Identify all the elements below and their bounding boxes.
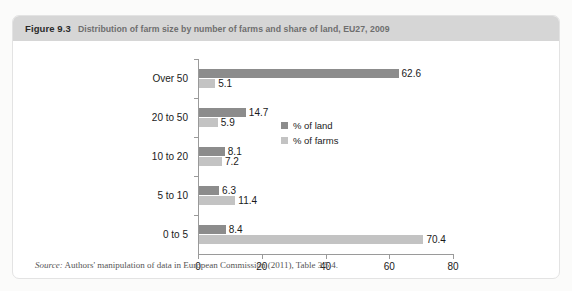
category-label: Over 50: [78, 74, 188, 84]
category-label: 0 to 5: [78, 230, 188, 240]
bar-value-label: 11.4: [238, 196, 257, 206]
bar-value-label: 70.4: [426, 235, 445, 245]
bar-farms: [199, 79, 215, 88]
category-label: 20 to 50: [78, 113, 188, 123]
x-axis-tick-label: 80: [433, 262, 473, 272]
x-axis-tick: [389, 255, 390, 259]
source-note: Source: Authors' manipulation of data in…: [35, 260, 338, 270]
legend-label: % of land: [293, 121, 333, 131]
y-axis-tick: [194, 215, 198, 216]
x-axis-tick: [326, 255, 327, 259]
legend-label: % of farms: [293, 136, 338, 146]
y-axis-tick: [194, 137, 198, 138]
bar-value-label: 7.2: [225, 157, 239, 167]
bar-land: [199, 108, 246, 117]
bar-value-label: 5.1: [218, 79, 232, 89]
bar-land: [199, 69, 399, 78]
y-axis-tick: [194, 98, 198, 99]
chart-legend: % of land% of farms: [281, 119, 338, 149]
x-axis-tick: [198, 255, 199, 259]
bar-land: [199, 147, 225, 156]
figure-title: Distribution of farm size by number of f…: [78, 24, 390, 34]
source-text: Authors' manipulation of data in Europea…: [63, 260, 338, 270]
bar-land: [199, 186, 219, 195]
figure-number: Figure 9.3: [25, 23, 71, 34]
category-label: 5 to 10: [78, 191, 188, 201]
x-axis-tick: [262, 255, 263, 259]
legend-item[interactable]: % of farms: [281, 134, 338, 147]
figure-container: Figure 9.3 Distribution of farm size by …: [12, 15, 560, 279]
bar-land: [199, 225, 226, 234]
bar-value-label: 14.7: [249, 108, 268, 118]
figure-header-band: Figure 9.3 Distribution of farm size by …: [13, 16, 559, 41]
bar-farms: [199, 118, 218, 127]
bar-farms: [199, 157, 222, 166]
legend-item[interactable]: % of land: [281, 119, 338, 132]
source-label: Source:: [35, 260, 63, 270]
x-axis-tick: [453, 255, 454, 259]
bar-farms: [199, 235, 423, 244]
legend-swatch-icon: [281, 137, 288, 144]
bar-value-label: 5.9: [221, 118, 235, 128]
category-label: 10 to 20: [78, 152, 188, 162]
bar-value-label: 62.6: [402, 69, 421, 79]
x-axis-tick-label: 60: [369, 262, 409, 272]
bar-value-label: 8.4: [229, 225, 243, 235]
y-axis-tick: [194, 176, 198, 177]
bar-value-label: 6.3: [222, 186, 236, 196]
bar-farms: [199, 196, 235, 205]
chart-plot-area: 0204060800 to 58.470.45 to 106.311.410 t…: [13, 41, 560, 255]
y-axis-tick: [194, 59, 198, 60]
legend-swatch-icon: [281, 122, 288, 129]
